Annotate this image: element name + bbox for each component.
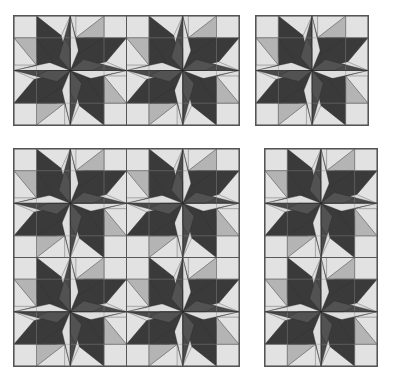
star-block [14,16,127,125]
corner-square [104,236,127,258]
corner-square [104,258,127,280]
corner-square [127,236,150,258]
corner-square [217,103,240,125]
corner-square [14,149,37,171]
star-block [256,16,368,125]
corner-square [217,16,240,38]
corner-square [127,16,150,38]
corner-square [127,103,150,125]
star-block [14,258,127,367]
corner-square [217,344,240,366]
corner-square [217,258,240,280]
corner-square [256,16,278,38]
corner-square [217,149,240,171]
corner-square [104,149,127,171]
corner-square [355,258,377,280]
corner-square [104,16,127,38]
corner-square [256,103,278,125]
corner-square [265,236,287,258]
star-block [127,258,240,367]
corner-square [355,236,377,258]
star-block [127,16,240,125]
corner-square [346,103,368,125]
quilt-svg [14,16,239,125]
star-block [265,258,377,367]
corner-square [265,149,287,171]
star-block [265,149,377,258]
corner-square [14,236,37,258]
corner-square [355,344,377,366]
star-block [14,149,127,258]
corner-square [14,103,37,125]
corner-square [14,258,37,280]
corner-square [355,149,377,171]
corner-square [127,344,150,366]
quilt-panel-2x1 [13,15,240,126]
corner-square [265,258,287,280]
corner-square [104,344,127,366]
corner-square [265,344,287,366]
corner-square [14,344,37,366]
quilt-svg [265,149,377,366]
quilt-svg [256,16,368,125]
corner-square [104,103,127,125]
corner-square [127,149,150,171]
quilt-panel-1x1 [255,15,369,126]
quilt-panel-1x2 [264,148,378,367]
star-block [127,149,240,258]
corner-square [14,16,37,38]
corner-square [127,258,150,280]
quilt-panel-2x2 [13,148,240,367]
corner-square [217,236,240,258]
quilt-svg [14,149,239,366]
corner-square [346,16,368,38]
